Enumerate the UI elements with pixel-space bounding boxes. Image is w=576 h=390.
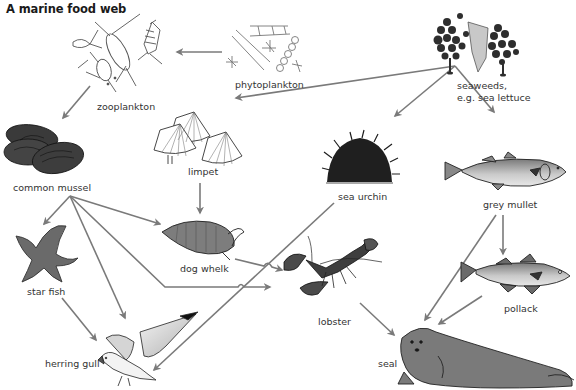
seal-illustration	[398, 328, 574, 388]
label-seaweeds-example: e.g. sea lettuce	[457, 92, 531, 103]
label-star-fish: star fish	[27, 286, 65, 297]
arrow-pollack-to-seal	[439, 296, 482, 324]
arrows	[44, 52, 503, 340]
limpet-illustration	[154, 112, 242, 166]
food-web-diagram: A marine food web	[0, 0, 576, 390]
arrow-mussel-to-lobster	[70, 196, 270, 287]
arrow-whelk-to-lobster	[235, 259, 282, 270]
grey-mullet-illustration	[445, 152, 566, 190]
label-phytoplankton: phytoplankton	[235, 79, 304, 90]
label-pollack: pollack	[504, 303, 538, 314]
arrow-mussel-to-gull	[70, 196, 125, 318]
dog-whelk-illustration	[162, 221, 244, 260]
label-dog-whelk: dog whelk	[180, 263, 229, 274]
sea-urchin-illustration	[322, 130, 400, 183]
label-herring-gull: herring gull	[45, 358, 100, 369]
arrow-mussel-to-starfish	[44, 196, 70, 224]
label-common-mussel: common mussel	[13, 182, 91, 193]
label-grey-mullet: grey mullet	[483, 199, 537, 210]
phytoplankton-illustration	[226, 26, 302, 72]
label-zooplankton: zooplankton	[97, 101, 155, 112]
common-mussel-illustration	[4, 121, 87, 178]
diagram-canvas	[0, 0, 576, 390]
pollack-illustration	[461, 254, 570, 294]
label-sea-urchin: sea urchin	[338, 191, 387, 202]
arrow-starfish-to-gull	[62, 298, 96, 340]
label-seal: seal	[378, 358, 397, 369]
arrow-lobster-to-seal	[360, 303, 394, 335]
lobster-illustration	[284, 236, 382, 295]
zooplankton-illustration	[73, 14, 162, 92]
label-seaweeds: seaweeds,	[457, 80, 507, 91]
star-fish-illustration	[16, 225, 78, 282]
label-lobster: lobster	[318, 316, 351, 327]
herring-gull-illustration	[98, 312, 198, 386]
label-limpet: limpet	[188, 166, 218, 177]
arrow-zooplankton-to-mussel	[63, 86, 90, 118]
